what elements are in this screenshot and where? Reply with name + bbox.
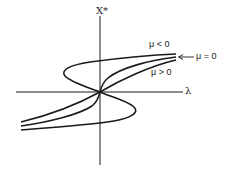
vertical-axis-label: X* bbox=[96, 6, 108, 16]
bifurcation-diagram bbox=[0, 0, 229, 174]
label-mu-negative: μ < 0 bbox=[149, 40, 169, 49]
label-mu-positive: μ > 0 bbox=[151, 68, 171, 77]
horizontal-axis-label: λ bbox=[185, 86, 191, 96]
label-mu-zero: μ = 0 bbox=[196, 52, 216, 61]
